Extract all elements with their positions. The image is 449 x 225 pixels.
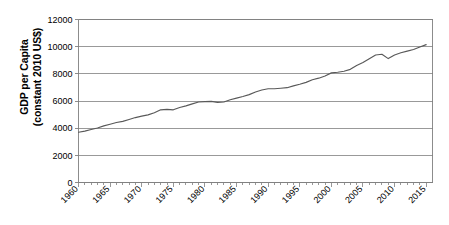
x-axis-ticks <box>79 183 427 187</box>
y-axis-tick-labels: 020004000600080001000012000 <box>47 15 72 188</box>
y-tick-label-12000: 12000 <box>47 15 72 25</box>
x-tick-label-2000: 2000 <box>312 184 333 205</box>
plot-area: 020004000600080001000012000 196019651970… <box>0 0 449 225</box>
y-tick-label-8000: 8000 <box>52 69 72 79</box>
y-tick-label-4000: 4000 <box>52 123 72 133</box>
x-tick-label-1985: 1985 <box>217 184 238 205</box>
y-tick-label-2000: 2000 <box>52 151 72 161</box>
x-tick-label-1970: 1970 <box>122 184 143 205</box>
x-tick-label-1980: 1980 <box>185 184 206 205</box>
series-line-0 <box>79 45 427 133</box>
x-axis-tick-labels: 1960196519701975198019851990199520002005… <box>59 184 428 205</box>
x-tick-label-2005: 2005 <box>343 184 364 205</box>
gridlines <box>79 20 433 183</box>
x-tick-label-1995: 1995 <box>280 184 301 205</box>
x-tick-label-1960: 1960 <box>59 184 80 205</box>
gdp-per-capita-line-chart: GDP per Capita (constant 2010 US$) 02000… <box>0 0 449 225</box>
x-tick-label-1990: 1990 <box>248 184 269 205</box>
x-tick-label-2015: 2015 <box>406 184 427 205</box>
x-tick-label-1965: 1965 <box>90 184 111 205</box>
data-series <box>79 45 427 133</box>
y-tick-label-6000: 6000 <box>52 96 72 106</box>
y-tick-label-10000: 10000 <box>47 42 72 52</box>
x-tick-label-2010: 2010 <box>375 184 396 205</box>
x-tick-label-1975: 1975 <box>154 184 175 205</box>
y-axis-ticks <box>75 20 79 183</box>
